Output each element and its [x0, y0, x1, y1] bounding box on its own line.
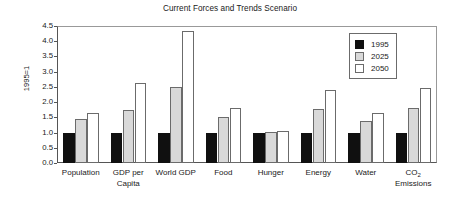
bar — [325, 90, 337, 163]
bar-group — [105, 26, 153, 163]
bar — [182, 31, 194, 163]
bar — [206, 133, 218, 163]
legend-item[interactable]: 2050 — [355, 62, 389, 74]
legend-item-label: 1995 — [371, 40, 389, 49]
bar — [218, 117, 230, 163]
bar — [265, 132, 277, 163]
y-axis-tick-label: 4.5 — [42, 22, 53, 30]
bar-group — [247, 26, 295, 163]
legend-swatch-icon — [355, 52, 364, 61]
bar — [277, 131, 289, 163]
bar — [63, 133, 75, 163]
bar-group — [295, 26, 343, 163]
legend-item[interactable]: 2025 — [355, 50, 389, 62]
y-axis-tick-label: 2.5 — [42, 83, 53, 91]
bar-group — [57, 26, 105, 163]
bar — [75, 119, 87, 163]
bar — [87, 113, 99, 163]
bar — [420, 88, 432, 163]
legend-item-label: 2025 — [371, 52, 389, 61]
bar — [313, 109, 325, 163]
bar — [253, 133, 265, 163]
chart-title: Current Forces and Trends Scenario — [0, 4, 460, 13]
legend-swatch-icon — [355, 40, 364, 49]
y-axis-tick-label: 0.5 — [42, 144, 53, 152]
y-axis-tick-label: 4.0 — [42, 37, 53, 45]
bar — [135, 83, 147, 163]
bar — [158, 133, 170, 163]
chart-legend: 199520252050 — [349, 33, 397, 79]
bar — [360, 121, 372, 163]
bar — [111, 133, 123, 163]
bar — [396, 133, 408, 163]
y-axis-tick-label: 1.5 — [42, 113, 53, 121]
bar-group — [152, 26, 200, 163]
y-axis-tick-label: 2.0 — [42, 98, 53, 106]
x-axis-labels: PopulationGDP perCapitaWorld GDPFoodHung… — [57, 168, 437, 214]
bar — [348, 133, 360, 163]
bar — [372, 113, 384, 163]
bar — [170, 87, 182, 163]
y-axis-tick-mark — [54, 163, 57, 164]
y-axis-tick-label: 3.0 — [42, 68, 53, 76]
chart-container: Current Forces and Trends Scenario 1995=… — [0, 0, 460, 217]
bar — [301, 133, 313, 163]
legend-item[interactable]: 1995 — [355, 38, 389, 50]
y-axis-tick-label: 0.0 — [42, 159, 53, 167]
bar-group — [200, 26, 248, 163]
bar — [123, 110, 135, 163]
x-axis-tick-label: CO2Emissions — [382, 168, 446, 189]
y-axis-tick-label: 1.0 — [42, 129, 53, 137]
bar — [230, 108, 242, 163]
y-axis-tick-label: 3.5 — [42, 53, 53, 61]
y-axis-ticks: 4.54.03.53.02.52.01.51.00.50.0 — [0, 0, 57, 217]
legend-item-label: 2050 — [371, 64, 389, 73]
legend-swatch-icon — [355, 64, 364, 73]
bar — [408, 108, 420, 163]
